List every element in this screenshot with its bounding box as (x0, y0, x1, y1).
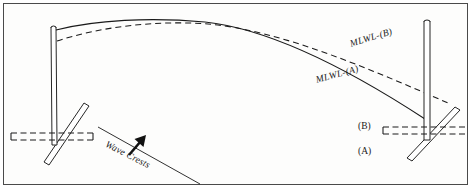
label-level-b: (B) (358, 122, 371, 132)
label-level-a: (A) (358, 147, 371, 157)
left-pile-cap (51, 26, 56, 28)
wave-crest-line (98, 127, 200, 184)
right-pile-post (424, 21, 430, 140)
figure-container: MLWL-(B) MLWL-(A) (B) (A) Wave Crests (0, 0, 471, 188)
left-pile-post (51, 27, 57, 145)
right-pile-cap (424, 20, 430, 22)
diagram-canvas (0, 0, 471, 188)
right-pile (407, 20, 460, 161)
left-pile (44, 26, 89, 165)
left-pile-brace (44, 103, 89, 165)
